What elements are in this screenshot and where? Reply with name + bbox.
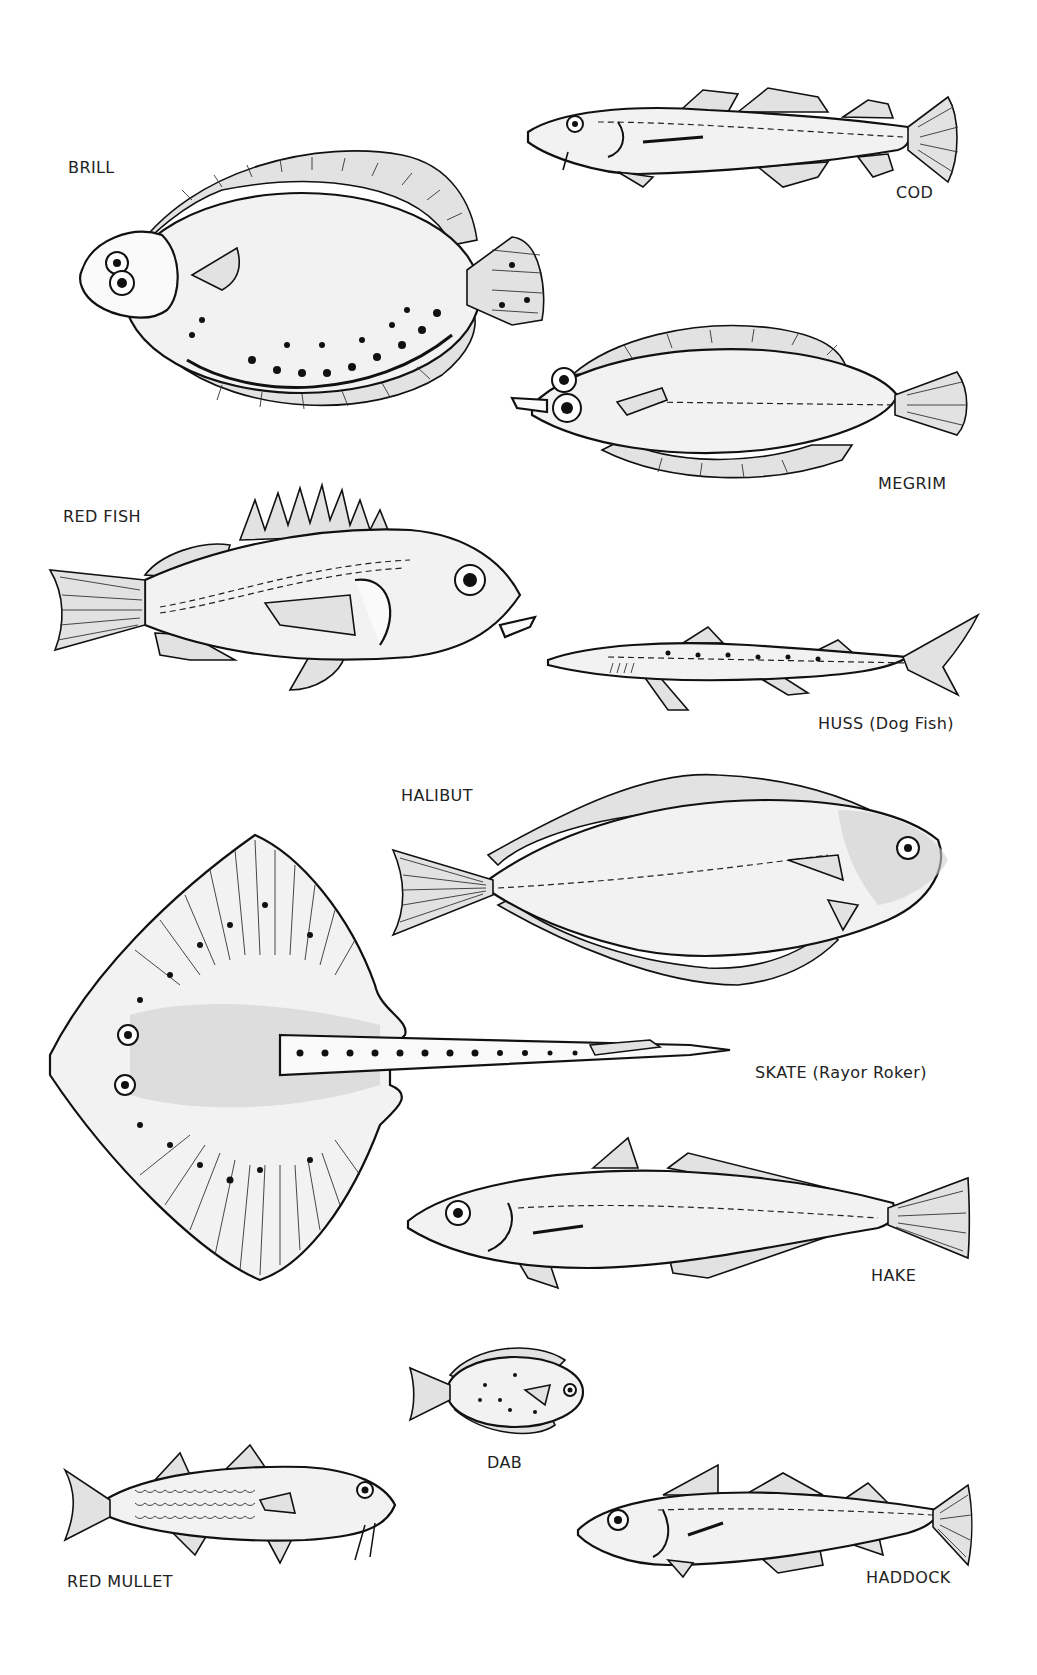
red-fish-illustration	[50, 485, 535, 695]
dab-illustration	[405, 1340, 605, 1440]
hake-illustration	[408, 1133, 973, 1288]
huss-illustration	[548, 615, 978, 725]
brill-illustration	[72, 145, 547, 430]
red-mullet-illustration	[65, 1445, 405, 1565]
label-skate: SKATE (Rayor Roker)	[755, 1063, 927, 1082]
haddock-illustration	[578, 1465, 973, 1580]
fish-identification-plate: BRILL	[0, 0, 1037, 1675]
label-dab: DAB	[487, 1453, 522, 1472]
cod-illustration	[528, 82, 963, 194]
label-red-mullet: RED MULLET	[67, 1572, 173, 1591]
megrim-illustration	[512, 320, 972, 490]
